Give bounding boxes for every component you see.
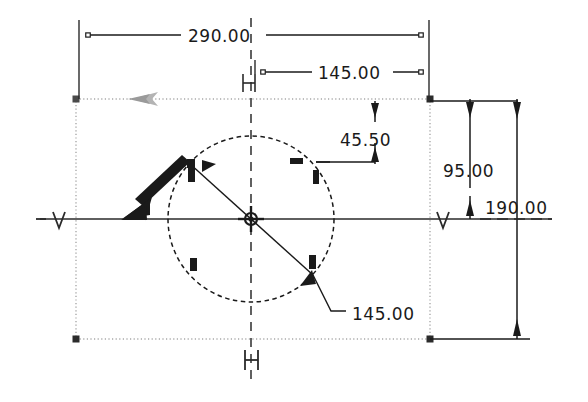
sketch-drag-arrow[interactable] (121, 155, 190, 222)
constraint-horizontal-top[interactable] (243, 74, 255, 92)
dim-circle-diameter-label: 145.00 (352, 304, 414, 324)
constraint-vertical-right[interactable] (437, 212, 449, 228)
drag-direction-arrow[interactable] (128, 92, 158, 106)
dim-arrow-up-4550 (371, 103, 379, 118)
dim-arrow-up-9500 (466, 102, 474, 118)
dim-overall-height-label: 190.00 (485, 198, 547, 218)
dim-center-x-label: 145.00 (318, 63, 380, 83)
rect-handle-bottom-left[interactable] (73, 336, 80, 343)
constraint-vertical-left[interactable] (36, 212, 65, 228)
diameter-leader-line[interactable]: 145.00 (189, 160, 414, 324)
dim-center-y-label: 95.00 (443, 161, 494, 181)
dim-circle-top-offset-label: 45.50 (340, 130, 391, 150)
cad-sketch-svg[interactable]: 145.00 290.00 (0, 0, 588, 402)
circle-point-marker (188, 168, 195, 182)
dim-overall-width-label: 290.00 (188, 26, 250, 46)
cad-drawing-canvas[interactable]: 145.00 290.00 (0, 0, 588, 402)
diameter-arrowhead-upper (202, 160, 216, 172)
dim-overall-width[interactable]: 290.00 (79, 20, 429, 99)
dim-arrow-up-190 (513, 102, 521, 119)
circle-point-marker (190, 258, 197, 271)
circle-point-marker (290, 158, 303, 164)
circle-point-marker (309, 255, 316, 269)
dim-circle-top-offset[interactable]: 45.50 (316, 101, 391, 164)
constraint-horizontal-bottom[interactable] (245, 350, 258, 370)
dim-arrow-down-9500 (466, 200, 474, 216)
dim-arrow-down-190 (513, 319, 521, 336)
circle-point-marker (313, 170, 319, 184)
dim-center-x[interactable]: 145.00 (243, 60, 421, 92)
